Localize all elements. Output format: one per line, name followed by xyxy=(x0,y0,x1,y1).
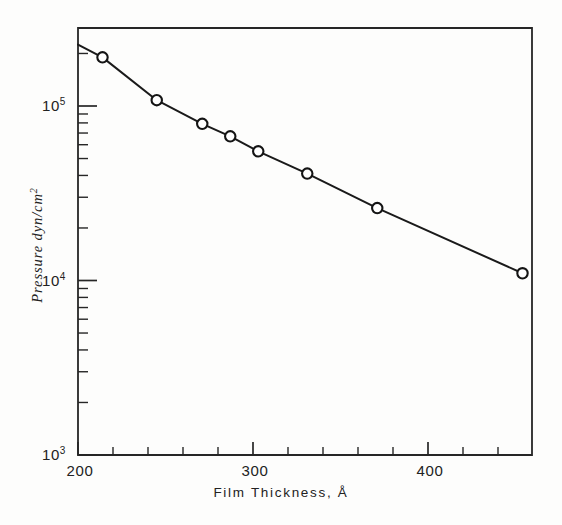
data-point-marker xyxy=(197,119,207,129)
x-tick-label: 200 xyxy=(67,462,94,479)
series-markers xyxy=(97,52,527,278)
x-axis-title-text: Film Thickness, Å xyxy=(213,485,348,500)
data-point-marker xyxy=(152,95,162,105)
data-point-marker xyxy=(225,131,235,141)
x-axis-major-ticks xyxy=(78,442,428,455)
data-series-group xyxy=(78,45,528,279)
y-axis-tick-labels: 103104105 xyxy=(42,96,66,463)
series-line xyxy=(78,45,523,274)
data-point-marker xyxy=(302,168,312,178)
scientific-plot: 103104105 200300400 Film Thickness, Å Pr… xyxy=(0,0,562,525)
x-tick-label: 300 xyxy=(242,462,269,479)
x-tick-label: 400 xyxy=(417,462,444,479)
y-tick-label-exponent: 4 xyxy=(60,271,66,282)
data-point-marker xyxy=(372,203,382,213)
y-tick-label: 104 xyxy=(42,271,66,289)
x-axis-minor-ticks xyxy=(113,447,498,455)
figure-container: 103104105 200300400 Film Thickness, Å Pr… xyxy=(0,0,562,525)
data-point-marker xyxy=(97,52,107,62)
data-point-marker xyxy=(253,146,263,156)
data-point-marker xyxy=(517,268,527,278)
y-tick-label: 103 xyxy=(42,445,66,463)
x-axis-title: Film Thickness, Å xyxy=(213,485,348,500)
y-tick-label-exponent: 3 xyxy=(60,445,66,456)
y-axis-title: Pressure dyn/cm2 xyxy=(28,187,45,303)
y-tick-label-base: 10 xyxy=(42,446,60,463)
y-axis-title-text: Pressure dyn/cm2 xyxy=(28,187,45,303)
y-tick-label-exponent: 5 xyxy=(60,96,66,107)
y-tick-label-base: 10 xyxy=(42,97,60,114)
x-axis-tick-labels: 200300400 xyxy=(67,462,444,479)
y-tick-label: 105 xyxy=(42,96,66,114)
